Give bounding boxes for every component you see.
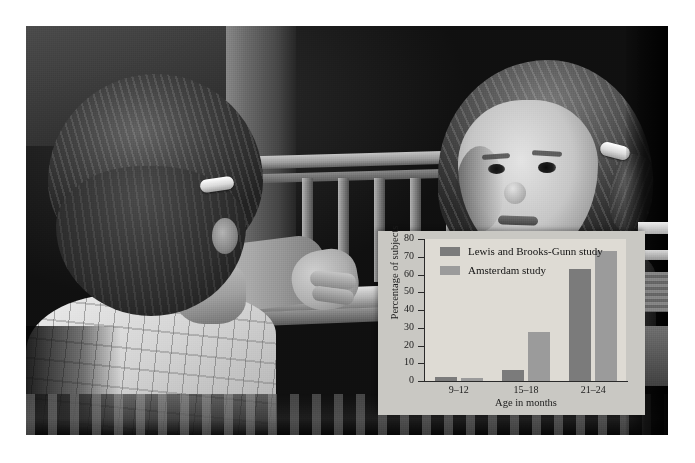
x-axis-tick-label: 21–24 — [581, 384, 606, 395]
child-right-eye-right — [538, 162, 556, 173]
y-axis-tick-label: 20 — [378, 339, 414, 350]
x-axis-line — [424, 381, 628, 382]
bar-amsterdam — [461, 378, 483, 381]
x-axis-title: Age in months — [424, 397, 628, 408]
chart-legend: Lewis and Brooks-Gunn studyAmsterdam stu… — [440, 245, 603, 283]
bar-lewis-brooks-gunn — [502, 370, 524, 381]
bar-lewis-brooks-gunn — [435, 377, 457, 381]
y-axis-tick — [418, 363, 424, 364]
y-axis-tick-label: 0 — [378, 374, 414, 385]
x-axis-tick-label: 15–18 — [514, 384, 539, 395]
legend-item: Amsterdam study — [440, 264, 603, 276]
y-axis-tick — [418, 310, 424, 311]
child-right-eye-left — [488, 164, 505, 174]
y-axis-tick-label: 10 — [378, 356, 414, 367]
child-left-ear — [212, 218, 238, 254]
x-axis-tick-label: 9–12 — [449, 384, 469, 395]
y-axis-tick — [418, 381, 424, 382]
child-right-mouth — [498, 215, 538, 225]
y-axis-title: Percentage of subjects — [389, 213, 400, 333]
legend-label: Amsterdam study — [468, 264, 546, 276]
child-right-nose — [504, 182, 526, 204]
bar-amsterdam — [528, 332, 550, 381]
bar-lewis-brooks-gunn — [569, 269, 591, 381]
y-axis-tick — [418, 328, 424, 329]
y-axis-tick — [418, 275, 424, 276]
y-axis-tick — [418, 257, 424, 258]
figure-container: 01020304050607080 Percentage of subjects… — [0, 0, 695, 463]
legend-item: Lewis and Brooks-Gunn study — [440, 245, 603, 257]
y-axis-tick — [418, 239, 424, 240]
legend-swatch — [440, 247, 460, 256]
inset-bar-chart: 01020304050607080 Percentage of subjects… — [378, 231, 645, 415]
legend-label: Lewis and Brooks-Gunn study — [468, 245, 603, 257]
y-axis-tick — [418, 292, 424, 293]
y-axis-tick — [418, 346, 424, 347]
legend-swatch — [440, 266, 460, 275]
